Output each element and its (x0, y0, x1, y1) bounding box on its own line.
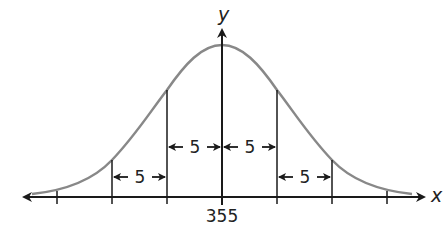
normal-curve-diagram: 5 5 5 5 355 x y (0, 0, 445, 235)
x-axis-label: x (430, 184, 443, 206)
interval-label-2: 5 (190, 137, 201, 157)
y-axis-label: y (217, 3, 230, 25)
interval-label-4: 5 (300, 167, 311, 187)
interval-label-1: 5 (135, 167, 146, 187)
mean-label: 355 (206, 206, 238, 226)
interval-label-3: 5 (245, 137, 256, 157)
